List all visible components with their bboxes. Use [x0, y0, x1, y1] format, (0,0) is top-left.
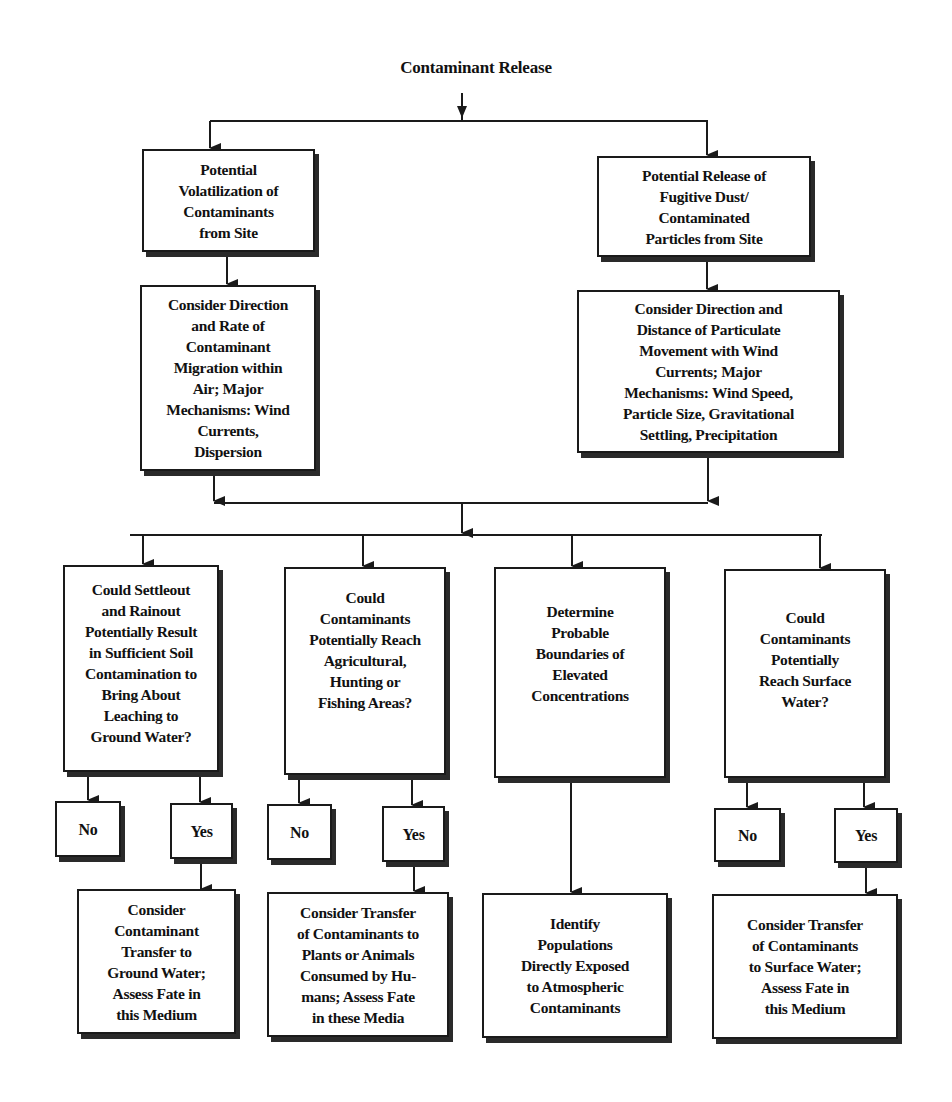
groundwater-outcome-box: Consider Contaminant Transfer to Ground …: [77, 889, 236, 1034]
agricultural-outcome-box: Consider Transfer of Contaminants to Pla…: [267, 892, 449, 1037]
boundaries-label: Determine Probable Boundaries of Elevate…: [531, 601, 628, 706]
start-node-contaminant-release: Contaminant Release: [0, 58, 952, 78]
particulate-movement-label: Consider Direction and Distance of Parti…: [623, 298, 794, 445]
surface-water-question-label: Could Contaminants Potentially Reach Sur…: [759, 607, 851, 712]
volatilization-box: Potential Volatilization of Contaminants…: [142, 149, 315, 252]
groundwater-yes-label: Yes: [190, 821, 212, 842]
groundwater-no-box: No: [55, 801, 121, 857]
groundwater-question-label: Could Settleout and Rainout Potentially …: [85, 579, 197, 747]
surface-water-yes-box: Yes: [834, 808, 898, 863]
exposed-populations-box: Identify Populations Directly Exposed to…: [482, 893, 668, 1038]
air-migration-box: Consider Direction and Rate of Contamina…: [140, 285, 316, 471]
agricultural-no-label: No: [290, 822, 309, 843]
volatilization-label: Potential Volatilization of Contaminants…: [179, 159, 279, 243]
groundwater-outcome-label: Consider Contaminant Transfer to Ground …: [107, 899, 205, 1025]
agricultural-question-box: Could Contaminants Potentially Reach Agr…: [284, 567, 446, 775]
surface-water-outcome-box: Consider Transfer of Contaminants to Sur…: [712, 894, 898, 1039]
surface-water-no-box: No: [714, 808, 781, 862]
boundaries-box: Determine Probable Boundaries of Elevate…: [494, 567, 666, 778]
surface-water-yes-label: Yes: [855, 825, 877, 846]
agricultural-yes-label: Yes: [402, 824, 424, 845]
groundwater-no-label: No: [79, 819, 98, 840]
groundwater-yes-box: Yes: [170, 803, 233, 859]
surface-water-question-box: Could Contaminants Potentially Reach Sur…: [724, 569, 886, 778]
particulate-movement-box: Consider Direction and Distance of Parti…: [577, 290, 840, 453]
fugitive-dust-box: Potential Release of Fugitive Dust/ Cont…: [597, 156, 811, 257]
agricultural-outcome-label: Consider Transfer of Contaminants to Pla…: [297, 902, 419, 1028]
groundwater-question-box: Could Settleout and Rainout Potentially …: [63, 565, 219, 772]
air-migration-label: Consider Direction and Rate of Contamina…: [166, 294, 289, 462]
surface-water-outcome-label: Consider Transfer of Contaminants to Sur…: [747, 914, 863, 1019]
agricultural-question-label: Could Contaminants Potentially Reach Agr…: [309, 587, 421, 713]
flowchart: Contaminant Release Potential Volatiliza…: [0, 0, 952, 1102]
surface-water-no-label: No: [738, 825, 757, 846]
exposed-populations-label: Identify Populations Directly Exposed to…: [521, 913, 629, 1018]
agricultural-no-box: No: [267, 804, 332, 860]
fugitive-dust-label: Potential Release of Fugitive Dust/ Cont…: [642, 165, 766, 249]
agricultural-yes-box: Yes: [382, 806, 445, 862]
